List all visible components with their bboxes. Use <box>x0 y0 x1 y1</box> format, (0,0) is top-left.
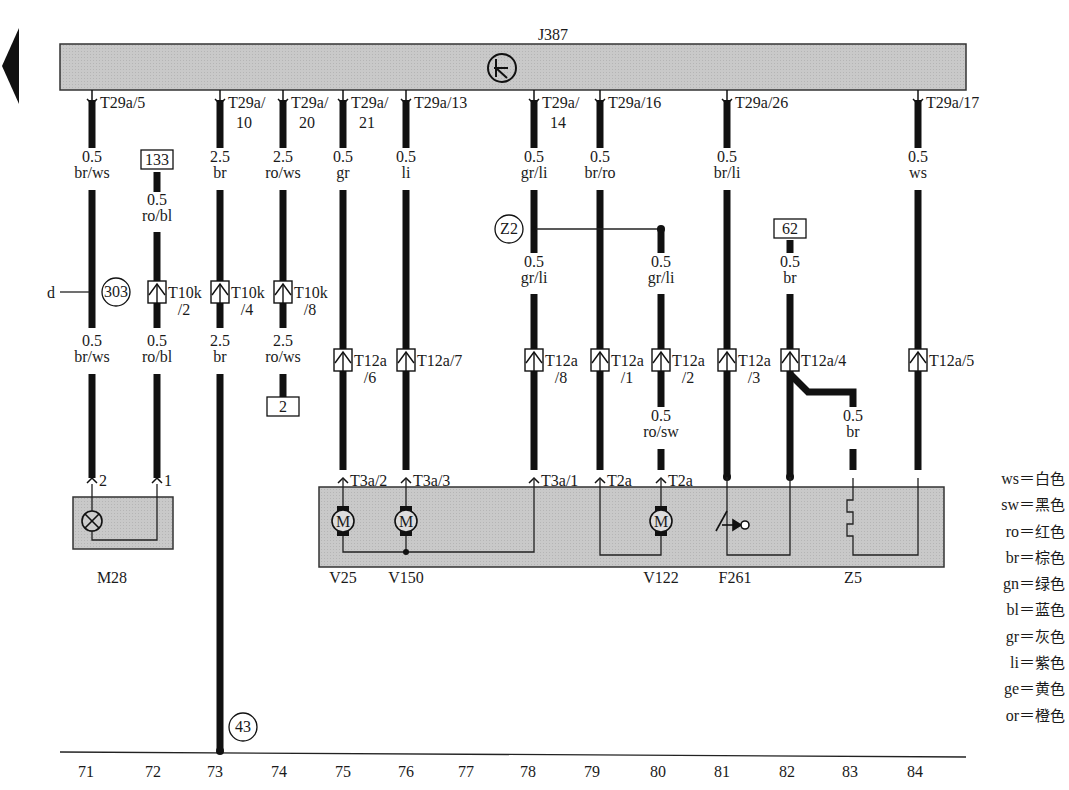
wire-size: 0.5 <box>82 332 102 349</box>
legend-meaning: 灰色 <box>1035 628 1065 646</box>
legend-item: ws＝白色 <box>965 466 1065 492</box>
terminal-label: T29a/17 <box>926 94 979 111</box>
wire-color: li <box>402 164 411 181</box>
wiring-diagram: J387 <box>0 0 1069 790</box>
svg-text:M: M <box>399 513 413 530</box>
svg-text:M: M <box>654 513 668 530</box>
component-label: M28 <box>97 569 127 586</box>
left-arrow-icon[interactable] <box>2 28 19 104</box>
boxed-references: 133262 <box>141 150 806 416</box>
branch-letter: d <box>47 284 55 301</box>
grid-number: 83 <box>842 763 858 780</box>
legend-meaning: 紫色 <box>1035 654 1065 672</box>
pin-label: 1 <box>164 472 172 489</box>
connector-label-line2: /8 <box>555 369 567 386</box>
wire-size: 2.5 <box>210 332 230 349</box>
wire-size: 2.5 <box>273 148 293 165</box>
legend-item: or＝橙色 <box>965 703 1065 729</box>
grid-number: 78 <box>520 763 536 780</box>
connector-label: T12a <box>611 352 644 369</box>
connector-label: T10k <box>168 284 202 301</box>
reference-circle: Z2 <box>500 220 518 237</box>
wire-color: br <box>213 348 227 365</box>
wire-color: br/ws <box>74 164 110 181</box>
wire-size: 2.5 <box>273 332 293 349</box>
grid-number: 80 <box>650 763 666 780</box>
terminal-label: T29a/ <box>542 94 580 111</box>
connector-label: T12a <box>354 352 387 369</box>
legend-item: ro＝红色 <box>965 519 1065 545</box>
wire-color: gr/li <box>648 269 675 287</box>
reference-circle: 43 <box>235 718 251 735</box>
wire-color: br <box>213 164 227 181</box>
wire-size: 0.5 <box>780 253 800 270</box>
control-unit-label: J387 <box>538 26 568 43</box>
connector-label-line2: /2 <box>178 301 190 318</box>
legend-code: or＝ <box>1006 707 1035 724</box>
wire-color: br/ws <box>74 348 110 365</box>
grid-number: 77 <box>458 763 474 780</box>
reference-box: 133 <box>145 151 169 168</box>
legend-code: gr＝ <box>1006 628 1035 645</box>
connector-label: T10k <box>294 284 328 301</box>
terminal-label: T29a/26 <box>735 94 788 111</box>
grid-number: 73 <box>207 763 223 780</box>
control-unit-j387 <box>60 44 966 90</box>
wire-size: 0.5 <box>524 253 544 270</box>
connector-label-line2: /1 <box>621 369 633 386</box>
legend-meaning: 橙色 <box>1035 707 1065 725</box>
connector-label-line2: /4 <box>241 301 253 318</box>
connector-label: T12a/4 <box>801 352 846 369</box>
legend-meaning: 蓝色 <box>1035 601 1065 619</box>
wire-labels: 0.5br/ws0.5ro/bl2.5br2.5ro/ws0.5gr0.5li0… <box>74 148 928 440</box>
grid-number: 71 <box>78 763 94 780</box>
terminal-label-line2: 20 <box>299 114 315 131</box>
connector-label-line2: /3 <box>748 369 760 386</box>
wire-size: 0.5 <box>396 148 416 165</box>
legend-item: sw＝黑色 <box>965 492 1065 518</box>
wire-color: gr/li <box>521 269 548 287</box>
connector-label-line2: /8 <box>304 301 316 318</box>
grid-numbers: 7172737475767778798081828384 <box>78 763 923 780</box>
component-label: Z5 <box>844 569 862 586</box>
legend-item: bl＝蓝色 <box>965 597 1065 623</box>
connector-label-line2: /2 <box>682 369 694 386</box>
svg-text:M: M <box>336 513 350 530</box>
wires <box>92 100 918 750</box>
wire-size: 0.5 <box>651 253 671 270</box>
wire-size: 0.5 <box>651 407 671 424</box>
wire-color: ro/bl <box>142 348 173 365</box>
wire-color: br/ro <box>584 164 615 181</box>
wire-size: 0.5 <box>147 191 167 208</box>
wire-color: ro/ws <box>265 164 301 181</box>
legend-code: ws＝ <box>1001 470 1035 487</box>
terminal-label-line2: 14 <box>550 114 566 131</box>
reference-circle: 303 <box>104 283 128 300</box>
grid-number: 82 <box>779 763 795 780</box>
wire-size: 0.5 <box>82 148 102 165</box>
component-label: F261 <box>719 569 752 586</box>
wire-size: 2.5 <box>210 148 230 165</box>
legend-meaning: 黑色 <box>1035 496 1065 514</box>
connector-label: T12a <box>738 352 771 369</box>
wire-color: ro/sw <box>643 423 679 440</box>
grid-number: 79 <box>584 763 600 780</box>
connectors: T10k/2T10k/4T10k/8T12a/6T12a/7T12a/8T12a… <box>148 281 974 386</box>
terminal-label: T29a/16 <box>608 94 661 111</box>
legend-meaning: 红色 <box>1035 523 1065 541</box>
terminal-label: T29a/ <box>291 94 329 111</box>
terminal-label: T29a/5 <box>100 94 145 111</box>
terminal-label-line2: 21 <box>359 114 375 131</box>
legend-meaning: 白色 <box>1035 470 1065 488</box>
legend-item: ge＝黄色 <box>965 676 1065 702</box>
connector-label-line2: /6 <box>364 369 376 386</box>
wire-color: br <box>846 423 860 440</box>
grid-number: 75 <box>335 763 351 780</box>
grid-number: 84 <box>907 763 923 780</box>
connector-label: T12a/7 <box>417 352 462 369</box>
legend-meaning: 棕色 <box>1035 549 1065 567</box>
terminal-label: T29a/ <box>351 94 389 111</box>
wire-size: 0.5 <box>524 148 544 165</box>
wire-size: 0.5 <box>590 148 610 165</box>
wire-color: ws <box>909 164 927 181</box>
